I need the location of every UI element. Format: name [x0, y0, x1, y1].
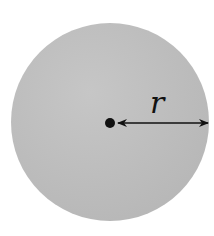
diagram-canvas	[0, 0, 214, 236]
circle-radius-diagram: r	[0, 0, 214, 236]
radius-label: r	[150, 88, 164, 118]
center-point	[105, 118, 115, 128]
